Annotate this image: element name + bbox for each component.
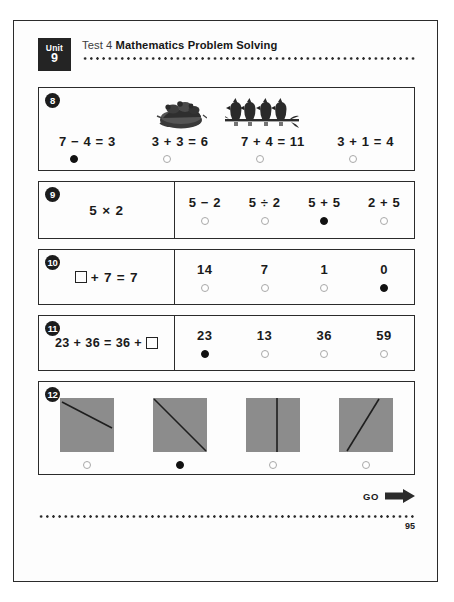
go-label: GO — [363, 491, 379, 502]
option[interactable]: 5 + 5 — [295, 195, 355, 225]
square-with-off-center-vertical-line — [246, 398, 300, 452]
question-11-options: 23 13 36 59 — [175, 316, 414, 370]
question-prompt: + 7 = 7 — [75, 270, 139, 285]
option-label: 3 + 1 = 4 — [319, 134, 412, 149]
option-radio[interactable] — [354, 284, 414, 292]
option[interactable]: 5 − 2 — [175, 195, 235, 225]
question-12: 12 — [38, 381, 415, 475]
square-with-steep-slanted-line — [339, 398, 393, 452]
page-header: Unit 9 Test 4 Mathematics Problem Solvin… — [38, 37, 415, 77]
option-label: 2 + 5 — [354, 195, 414, 210]
option[interactable]: 13 — [235, 328, 295, 358]
option-label: 7 + 4 = 11 — [227, 134, 320, 149]
option-radio[interactable] — [354, 217, 414, 225]
option-radio[interactable] — [295, 284, 355, 292]
answer-blank-box — [75, 271, 87, 283]
question-prompt: 23 + 36 = 36 + — [55, 336, 158, 350]
answer-blank-box — [146, 337, 158, 349]
option-radio[interactable] — [175, 284, 235, 292]
question-9: 9 5 × 2 5 − 2 5 ÷ 2 5 + 5 — [38, 181, 415, 239]
header-dotted-rule — [82, 57, 415, 60]
option[interactable] — [319, 398, 412, 469]
question-10-options: 14 7 1 0 — [175, 250, 414, 304]
option[interactable]: 2 + 5 — [354, 195, 414, 225]
question-12-options — [41, 398, 412, 469]
worksheet-page: Unit 9 Test 4 Mathematics Problem Solvin… — [13, 20, 438, 582]
option-radio[interactable] — [295, 350, 355, 358]
question-8-artwork — [39, 94, 414, 132]
arrow-right-icon — [385, 489, 415, 503]
option-label: 7 − 4 = 3 — [41, 134, 134, 149]
question-11: 11 23 + 36 = 36 + 23 13 — [38, 315, 415, 371]
option-label: 36 — [295, 328, 355, 343]
option-label: 14 — [175, 262, 235, 277]
page-number: 95 — [405, 521, 415, 531]
option[interactable]: 3 + 1 = 4 — [319, 134, 412, 163]
bird-nest-illustration — [155, 96, 207, 130]
question-number-badge: 9 — [45, 187, 60, 202]
go-indicator: GO — [363, 489, 415, 503]
option-radio[interactable] — [175, 350, 235, 358]
option-label: 23 — [175, 328, 235, 343]
option-radio[interactable] — [354, 350, 414, 358]
question-11-prompt-pane: 23 + 36 = 36 + — [39, 316, 175, 370]
option-radio[interactable] — [176, 461, 184, 469]
option-radio[interactable] — [235, 217, 295, 225]
question-10-prompt-pane: + 7 = 7 — [39, 250, 175, 304]
test-title: Mathematics Problem Solving — [116, 39, 278, 51]
question-number-badge: 11 — [45, 321, 60, 336]
four-birds-on-branch-illustration — [225, 96, 299, 130]
option-radio[interactable] — [295, 217, 355, 225]
option[interactable]: 0 — [354, 262, 414, 292]
question-9-options: 5 − 2 5 ÷ 2 5 + 5 2 + 5 — [175, 182, 414, 238]
option[interactable]: 1 — [295, 262, 355, 292]
square-with-shallow-diagonal-line — [60, 398, 114, 452]
option-radio[interactable] — [362, 461, 370, 469]
option-label: 1 — [295, 262, 355, 277]
question-prompt-text: 23 + 36 = 36 + — [55, 336, 142, 350]
option-label: 59 — [354, 328, 414, 343]
option-label: 5 ÷ 2 — [235, 195, 295, 210]
option-label: 7 — [235, 262, 295, 277]
question-prompt-text: + 7 = 7 — [91, 270, 139, 285]
option-label: 5 + 5 — [295, 195, 355, 210]
test-label: Test 4 — [82, 39, 112, 51]
option-label: 5 − 2 — [175, 195, 235, 210]
option-radio[interactable] — [293, 155, 412, 163]
option[interactable] — [41, 398, 134, 469]
option-label: 3 + 3 = 6 — [134, 134, 227, 149]
option[interactable] — [134, 398, 227, 469]
option-radio[interactable] — [83, 461, 91, 469]
question-prompt: 5 × 2 — [89, 203, 123, 218]
square-with-corner-to-corner-diagonal-line — [153, 398, 207, 452]
question-number-badge: 10 — [45, 255, 60, 270]
option[interactable]: 7 — [235, 262, 295, 292]
unit-badge: Unit 9 — [38, 38, 71, 71]
unit-badge-number: 9 — [51, 52, 58, 65]
question-10: 10 + 7 = 7 14 7 — [38, 249, 415, 305]
option-label: 0 — [354, 262, 414, 277]
option-radio[interactable] — [269, 461, 277, 469]
option[interactable]: 59 — [354, 328, 414, 358]
question-9-prompt-pane: 5 × 2 — [39, 182, 175, 238]
option[interactable] — [227, 398, 320, 469]
footer-dotted-rule — [38, 515, 415, 518]
header-text: Test 4 Mathematics Problem Solving — [82, 37, 415, 60]
option[interactable]: 14 — [175, 262, 235, 292]
option[interactable]: 23 — [175, 328, 235, 358]
page-content: Unit 9 Test 4 Mathematics Problem Solvin… — [38, 37, 415, 533]
option-radio[interactable] — [235, 350, 295, 358]
option[interactable]: 36 — [295, 328, 355, 358]
option-label: 13 — [235, 328, 295, 343]
question-8: 8 — [38, 87, 415, 171]
question-8-options: 7 − 4 = 3 3 + 3 = 6 7 + 4 = 11 3 + 1 = 4 — [41, 134, 412, 163]
option[interactable]: 5 ÷ 2 — [235, 195, 295, 225]
page-title: Test 4 Mathematics Problem Solving — [82, 39, 415, 51]
option-radio[interactable] — [235, 284, 295, 292]
option-radio[interactable] — [175, 217, 235, 225]
page-footer: GO 95 — [38, 489, 415, 533]
